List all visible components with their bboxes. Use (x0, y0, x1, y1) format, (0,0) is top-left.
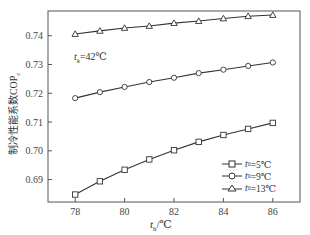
y-tick-label: 0.72 (26, 88, 44, 99)
triangle-marker-icon (222, 184, 242, 192)
square-marker-icon (222, 160, 242, 168)
x-tick-label: 86 (268, 206, 278, 217)
x-tick-label: 78 (70, 206, 80, 217)
legend: t0=5℃ t0=9℃ t0=13℃ (222, 158, 276, 194)
y-tick-label: 0.74 (26, 30, 44, 41)
x-axis-label: th/℃ (150, 218, 172, 233)
legend-item-9c: t0=9℃ (222, 170, 276, 182)
y-tick-label: 0.73 (26, 59, 44, 70)
series-circle (73, 60, 276, 101)
y-tick-label: 0.70 (26, 145, 44, 156)
line-chart: 0.690.700.710.720.730.74 7880828486 (0, 0, 310, 235)
legend-item-13c: t0=13℃ (222, 182, 276, 194)
legend-item-5c: t0=5℃ (222, 158, 276, 170)
x-tick-label: 80 (120, 206, 130, 217)
x-tick-label: 82 (169, 206, 179, 217)
circle-marker-icon (222, 172, 242, 180)
x-tick-label: 84 (218, 206, 228, 217)
x-axis-ticks: 7880828486 (70, 198, 278, 217)
y-axis-label: 制冷性能系数COPc (5, 59, 21, 169)
series-triangle (72, 12, 276, 37)
y-tick-label: 0.71 (26, 117, 44, 128)
y-tick-label: 0.69 (26, 174, 44, 185)
condensing-temp-annotation: tk=42℃ (74, 51, 107, 65)
